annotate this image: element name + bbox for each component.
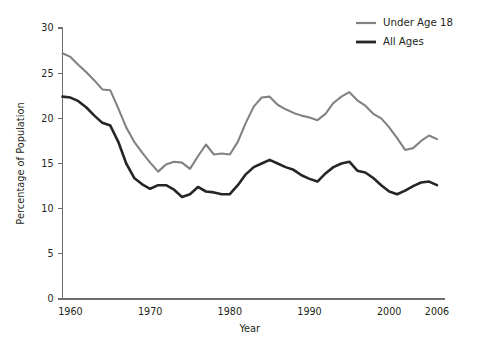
y-tick-label: 0 xyxy=(47,293,53,304)
series-line-under-age-18 xyxy=(63,53,438,171)
line-chart: 051015202530 Percentage of Population 19… xyxy=(0,0,484,342)
legend-label-0: Under Age 18 xyxy=(383,17,453,28)
x-axis-title: Year xyxy=(238,323,261,334)
x-axis: 196019701980199020002006 Year xyxy=(58,299,449,334)
x-tick-label: 1960 xyxy=(58,306,82,317)
y-tick-label: 10 xyxy=(41,203,53,214)
x-tick-label: 2006 xyxy=(425,306,449,317)
y-tick-label: 5 xyxy=(47,248,53,259)
chart-container: 051015202530 Percentage of Population 19… xyxy=(0,0,484,342)
chart-legend: Under Age 18All Ages xyxy=(356,17,453,47)
y-tick-label: 20 xyxy=(41,113,53,124)
y-tick-label: 15 xyxy=(41,158,53,169)
legend-label-1: All Ages xyxy=(383,36,424,47)
y-tick-label: 25 xyxy=(41,68,53,79)
y-axis-title: Percentage of Population xyxy=(15,102,26,224)
x-tick-label: 2000 xyxy=(377,306,401,317)
y-tick-group: 051015202530 xyxy=(41,22,62,304)
series-group xyxy=(63,53,438,197)
x-tick-group: 196019701980199020002006 xyxy=(58,306,449,317)
x-tick-label: 1990 xyxy=(297,306,321,317)
x-tick-label: 1970 xyxy=(138,306,162,317)
x-tick-label: 1980 xyxy=(218,306,242,317)
y-tick-label: 30 xyxy=(41,22,53,33)
y-axis: 051015202530 Percentage of Population xyxy=(15,22,63,304)
